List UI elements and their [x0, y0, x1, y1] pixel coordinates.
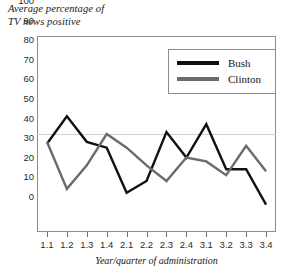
y-tick-label: 90: [4, 14, 34, 25]
x-axis-tick-marks: [37, 232, 276, 238]
y-tick-label: 40: [4, 112, 34, 123]
y-axis-tick-labels: 0102030405060708090100: [0, 0, 34, 196]
x-tick-mark: [206, 232, 207, 237]
y-tick-label: 80: [4, 34, 34, 45]
x-tick-label: 3.4: [253, 239, 279, 250]
y-tick-label: 0: [4, 191, 34, 202]
legend-item-clinton: Clinton: [169, 71, 275, 87]
x-tick-mark: [166, 232, 167, 237]
x-tick-mark: [266, 232, 267, 237]
y-tick-label: 60: [4, 73, 34, 84]
x-axis-title: Year/quarter of administration: [37, 255, 276, 266]
series-line-clinton: [47, 134, 266, 189]
legend-label-clinton: Clinton: [228, 74, 261, 85]
legend-swatch-bush: [177, 61, 219, 65]
x-tick-mark: [127, 232, 128, 237]
x-tick-mark: [147, 232, 148, 237]
legend: Bush Clinton: [168, 49, 276, 94]
y-tick-label: 70: [4, 53, 34, 64]
x-tick-mark: [87, 232, 88, 237]
y-tick-label: 30: [4, 132, 34, 143]
x-tick-mark: [107, 232, 108, 237]
y-tick-label: 100: [4, 0, 34, 6]
series-line-bush: [47, 116, 266, 204]
y-tick-label: 10: [4, 171, 34, 182]
x-tick-mark: [246, 232, 247, 237]
legend-item-bush: Bush: [169, 55, 275, 71]
y-tick-label: 20: [4, 151, 34, 162]
x-axis-tick-labels: 1.11.21.31.42.12.22.32.43.13.23.33.4: [37, 239, 276, 253]
x-tick-mark: [226, 232, 227, 237]
legend-swatch-clinton: [177, 77, 219, 81]
x-tick-mark: [47, 232, 48, 237]
y-tick-label: 50: [4, 93, 34, 104]
x-tick-mark: [186, 232, 187, 237]
legend-label-bush: Bush: [228, 58, 251, 69]
x-tick-mark: [67, 232, 68, 237]
